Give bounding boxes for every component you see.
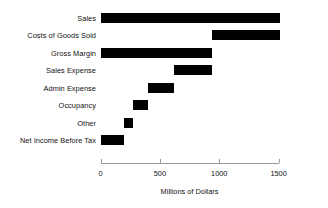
bar	[174, 65, 212, 75]
x-axis-tick	[160, 159, 161, 163]
bar	[124, 118, 132, 128]
x-axis-title: Millions of Dollars	[161, 187, 219, 196]
x-axis-tick-label: 1500	[270, 169, 286, 178]
bar	[212, 30, 280, 40]
category-label: Costs of Goods Sold	[0, 31, 96, 40]
bar	[148, 83, 174, 93]
bar	[101, 13, 280, 23]
category-label: Net Income Before Tax	[0, 136, 96, 145]
x-axis-tick	[219, 159, 220, 163]
category-label: Sales	[0, 14, 96, 23]
category-label: Admin Expense	[0, 83, 96, 92]
bar	[101, 135, 125, 145]
category-label: Gross Margin	[0, 48, 96, 57]
bar	[133, 100, 148, 110]
category-label: Other	[0, 118, 96, 127]
x-axis-tick-label: 0	[98, 169, 102, 178]
category-label: Occupancy	[0, 101, 96, 110]
category-label: Sales Expense	[0, 66, 96, 75]
waterfall-chart: SalesCosts of Goods SoldGross MarginSale…	[0, 0, 328, 208]
x-axis-tick-label: 500	[154, 169, 166, 178]
x-axis-tick-label: 1000	[211, 169, 227, 178]
x-axis-tick	[279, 159, 280, 163]
bar	[101, 48, 213, 58]
x-axis-tick	[101, 159, 102, 163]
x-axis-line	[101, 163, 279, 164]
